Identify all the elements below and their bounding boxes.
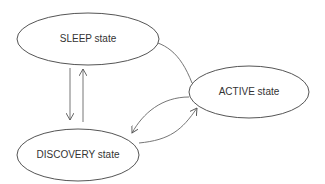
- node-active: ACTIVE state: [189, 66, 309, 118]
- node-active-label: ACTIVE state: [219, 86, 280, 97]
- node-sleep-label: SLEEP state: [60, 33, 117, 44]
- node-discovery-label: DISCOVERY state: [37, 149, 120, 160]
- state-diagram: SLEEP state DISCOVERY state ACTIVE state: [0, 0, 325, 184]
- node-sleep: SLEEP state: [17, 13, 159, 65]
- node-discovery: DISCOVERY state: [17, 129, 139, 181]
